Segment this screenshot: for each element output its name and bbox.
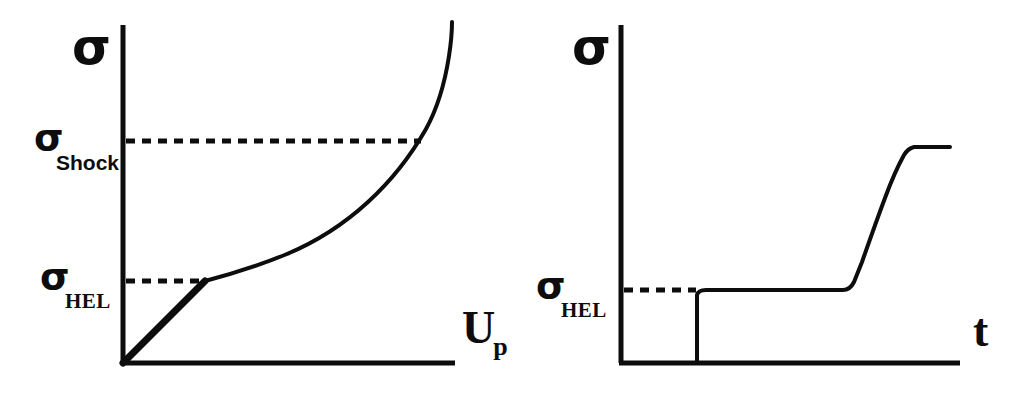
x-axis-label: t — [973, 308, 988, 354]
y-axis-label: σ — [72, 22, 111, 72]
x-axis-label-base: U — [462, 302, 495, 353]
figure-root: σ σ Shock σ HEL Up σ — [0, 0, 1019, 395]
x-axis-label-base: t — [973, 305, 988, 356]
panel-stress-history: σ σ HEL t — [510, 0, 1019, 395]
x-axis-label: Up — [462, 305, 510, 351]
y-axis-label: σ — [572, 22, 611, 72]
stress-history-curve — [621, 147, 950, 363]
plastic-hugoniot-curve — [205, 22, 452, 281]
tick-label-sigma-hel-sub: HEL — [561, 300, 607, 321]
elastic-branch-curve — [123, 281, 205, 363]
tick-label-sigma-hel: σ HEL — [40, 257, 111, 312]
tick-label-sigma-hel-sub: HEL — [65, 291, 111, 312]
x-axis-label-sub: p — [493, 332, 507, 361]
tick-label-sigma-hel: σ HEL — [536, 266, 607, 321]
tick-label-sigma-shock: σ Shock — [34, 118, 119, 173]
tick-label-sigma-shock-sub: Shock — [56, 152, 119, 173]
panel-hugoniot: σ σ Shock σ HEL Up — [0, 0, 510, 395]
